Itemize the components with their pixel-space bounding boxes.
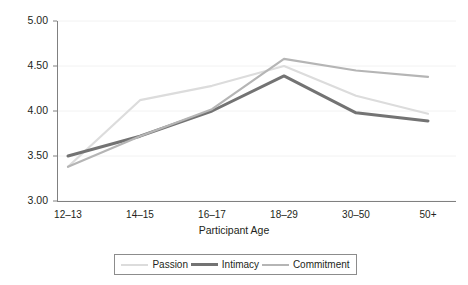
x-tick-label: 50+ <box>393 209 463 220</box>
line-chart: 3.003.504.004.505.00 12–1314–1516–1718–2… <box>0 0 468 285</box>
legend-item-commitment[interactable]: Commitment <box>262 259 350 270</box>
legend-item-passion[interactable]: Passion <box>121 259 188 270</box>
legend-swatch-icon <box>121 264 148 266</box>
gridlines <box>57 21 456 201</box>
x-axis-title: Participant Age <box>0 224 468 236</box>
x-tick-label: 16–17 <box>177 209 247 220</box>
y-tick-label: 3.50 <box>4 150 48 161</box>
chart-legend: PassionIntimacyCommitment <box>114 254 357 275</box>
x-tick-label: 14–15 <box>105 209 175 220</box>
legend-label: Intimacy <box>222 259 259 270</box>
legend-label: Passion <box>152 259 188 270</box>
x-tick-label: 12–13 <box>33 209 103 220</box>
y-tick-label: 3.00 <box>4 195 48 206</box>
legend-swatch-icon <box>191 263 218 266</box>
x-tick-label: 30–50 <box>321 209 391 220</box>
legend-swatch-icon <box>262 264 289 266</box>
series-line-passion <box>68 66 428 167</box>
x-tick-label: 18–29 <box>249 209 319 220</box>
y-tick-label: 5.00 <box>4 15 48 26</box>
y-tick-label: 4.00 <box>4 105 48 116</box>
plot-area <box>0 0 468 285</box>
y-tick-label: 4.50 <box>4 60 48 71</box>
legend-item-intimacy[interactable]: Intimacy <box>191 259 259 270</box>
legend-label: Commitment <box>293 259 350 270</box>
tick-marks <box>53 21 57 201</box>
series-lines <box>68 59 428 167</box>
